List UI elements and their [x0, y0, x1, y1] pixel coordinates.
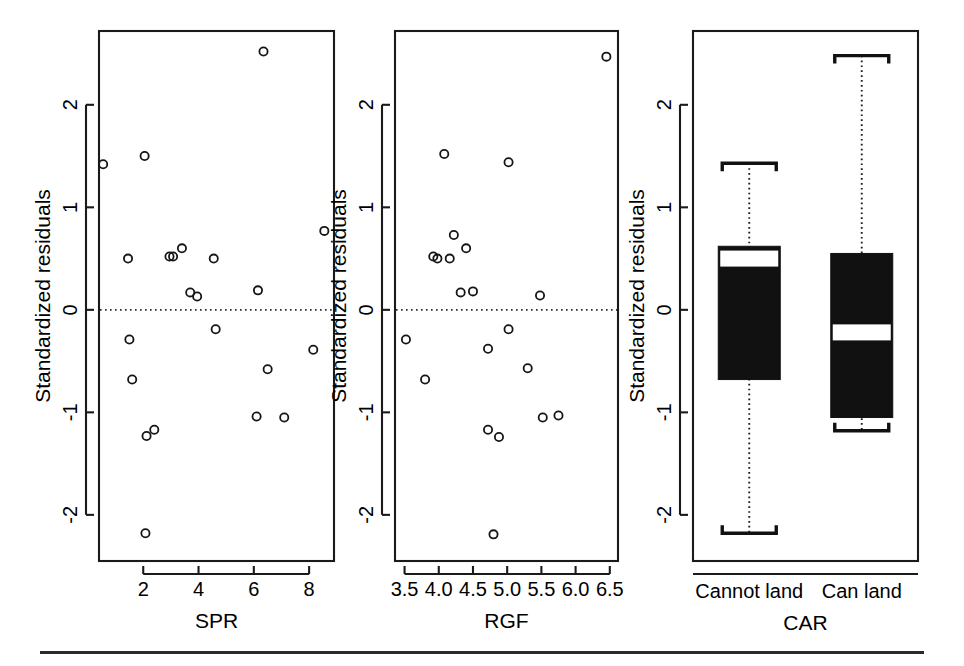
median-line	[833, 324, 891, 340]
whisker-staple	[722, 163, 776, 171]
y-tick-label: 1	[355, 202, 377, 213]
data-point	[484, 345, 492, 353]
x-tick-label: 6	[248, 578, 259, 600]
data-point	[264, 365, 272, 373]
data-point	[254, 286, 262, 294]
y-tick-label: 2	[59, 99, 81, 110]
y-tick-label: 1	[59, 202, 81, 213]
x-tick-label: 8	[304, 578, 315, 600]
y-tick-label: -2	[653, 506, 675, 524]
x-tick-label: 5.5	[527, 578, 555, 600]
data-point	[125, 335, 133, 343]
y-tick-label: -2	[355, 506, 377, 524]
y-tick-label: 2	[653, 99, 675, 110]
x-category-label-1: Can land	[822, 580, 902, 602]
y-tick-label: -1	[653, 403, 675, 421]
x-tick-label: 6.0	[562, 578, 590, 600]
boxplot-1	[831, 56, 893, 431]
data-point	[309, 346, 317, 354]
data-point	[141, 152, 149, 160]
x-tick-label: 4.0	[425, 578, 453, 600]
panel-1: -2-1012Standardized residuals2468SPR	[31, 31, 334, 632]
data-point	[602, 53, 610, 61]
panel-2: -2-1012Standardized residuals3.54.04.55.…	[327, 31, 624, 632]
y-tick-label: -1	[355, 403, 377, 421]
x-tick-label: 6.5	[596, 578, 624, 600]
y-axis-title: Standardized residuals	[327, 189, 350, 403]
x-tick-label: 4	[193, 578, 204, 600]
data-point	[212, 325, 220, 333]
data-point	[504, 325, 512, 333]
whisker-staple	[835, 56, 889, 64]
data-point	[554, 411, 562, 419]
data-point	[495, 433, 503, 441]
data-point	[446, 254, 454, 262]
data-point	[178, 244, 186, 252]
y-tick-label: 1	[653, 202, 675, 213]
data-point	[421, 375, 429, 383]
x-tick-label: 5.0	[493, 578, 521, 600]
data-point	[539, 413, 547, 421]
data-point	[124, 254, 132, 262]
x-tick-label: 4.5	[459, 578, 487, 600]
y-tick-label: 0	[653, 304, 675, 315]
y-tick-label: 2	[355, 99, 377, 110]
x-axis-title: SPR	[195, 609, 238, 632]
plot-frame	[395, 31, 618, 561]
data-point	[536, 291, 544, 299]
data-point	[504, 158, 512, 166]
x-tick-label: 2	[138, 578, 149, 600]
x-axis-title: CAR	[783, 611, 827, 634]
data-point	[259, 47, 267, 55]
median-line	[720, 251, 778, 267]
residual-diagnostics-figure: -2-1012Standardized residuals2468SPR-2-1…	[0, 0, 964, 666]
data-point	[457, 288, 465, 296]
data-point	[440, 150, 448, 158]
data-point	[450, 231, 458, 239]
x-category-label-0: Cannot land	[695, 580, 803, 602]
data-point	[128, 375, 136, 383]
y-tick-label: 0	[355, 304, 377, 315]
data-point	[99, 160, 107, 168]
data-point	[484, 426, 492, 434]
y-axis-title: Standardized residuals	[31, 189, 54, 403]
data-point	[142, 432, 150, 440]
data-point	[210, 254, 218, 262]
data-point	[469, 287, 477, 295]
y-tick-label: 0	[59, 304, 81, 315]
plot-frame	[99, 31, 334, 561]
data-point	[280, 413, 288, 421]
boxplot-0	[718, 163, 780, 533]
x-tick-label: 3.5	[391, 578, 419, 600]
bottom-horizontal-rule	[40, 651, 924, 654]
x-axis-title: RGF	[484, 609, 528, 632]
y-tick-label: -2	[59, 506, 81, 524]
y-tick-label: -1	[59, 403, 81, 421]
data-point	[141, 529, 149, 537]
data-point	[489, 530, 497, 538]
panel-3: -2-1012Standardized residualsCannot land…	[625, 31, 918, 634]
data-point	[252, 412, 260, 420]
data-point	[462, 244, 470, 252]
data-point	[193, 292, 201, 300]
data-point	[524, 364, 532, 372]
y-axis-title: Standardized residuals	[625, 189, 648, 403]
three-panel-residual-plot: -2-1012Standardized residuals2468SPR-2-1…	[0, 0, 964, 666]
data-point	[150, 426, 158, 434]
data-point	[402, 335, 410, 343]
